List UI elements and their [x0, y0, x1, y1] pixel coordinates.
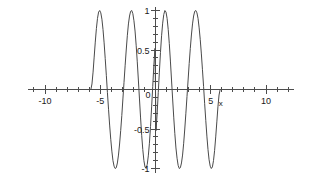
- plot-container: -10-551010.5-0.5-10 x: [0, 0, 309, 175]
- y-tick-label: -0.5: [134, 125, 150, 135]
- x-tick-label: -5: [96, 96, 104, 106]
- y-tick-label: -1: [141, 164, 149, 174]
- axes-group: [28, 7, 293, 173]
- x-tick-label: 10: [261, 96, 271, 106]
- function-plot: -10-551010.5-0.5-10 x: [0, 0, 309, 175]
- x-axis-label: x: [219, 99, 223, 108]
- x-tick-label: -10: [38, 96, 51, 106]
- y-tick-label: 1: [144, 6, 149, 16]
- y-tick-label: 0.5: [137, 46, 150, 56]
- origin-label: 0: [145, 90, 150, 100]
- x-tick-label: 5: [208, 96, 213, 106]
